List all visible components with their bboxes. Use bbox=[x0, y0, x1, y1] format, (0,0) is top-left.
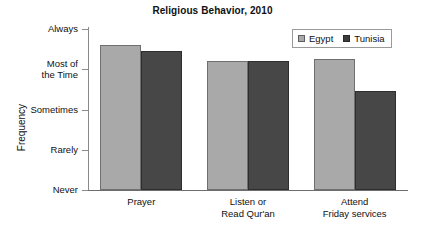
bar-egypt-2[interactable] bbox=[314, 59, 355, 190]
y-axis-title: Frequency bbox=[16, 63, 27, 193]
bar-tunisia-0[interactable] bbox=[141, 51, 182, 190]
bars-layer bbox=[88, 27, 408, 190]
y-axis-tick-label: Sometimes bbox=[0, 105, 78, 116]
legend-label-egypt: Egypt bbox=[309, 33, 333, 44]
bar-tunisia-2[interactable] bbox=[355, 91, 396, 190]
religious-behavior-bar-chart: Religious Behavior, 2010 Frequency Never… bbox=[0, 0, 425, 233]
y-axis-tick-mark bbox=[82, 190, 88, 191]
x-axis-category-label: Listen or Read Qur'an bbox=[188, 196, 308, 219]
y-axis-tick-label: Rarely bbox=[0, 145, 78, 156]
tunisia-color-swatch-icon bbox=[343, 35, 350, 42]
x-axis-category-label: Prayer bbox=[81, 196, 201, 208]
chart-title: Religious Behavior, 2010 bbox=[0, 5, 425, 16]
x-axis-line bbox=[88, 190, 408, 191]
bar-egypt-1[interactable] bbox=[207, 61, 248, 190]
y-axis-tick-label: Never bbox=[0, 185, 78, 196]
y-axis-tick-label: Most of the Time bbox=[0, 59, 78, 80]
legend-entry-egypt[interactable]: Egypt bbox=[298, 33, 333, 44]
egypt-color-swatch-icon bbox=[298, 35, 305, 42]
legend-label-tunisia: Tunisia bbox=[354, 33, 384, 44]
chart-legend: Egypt Tunisia bbox=[292, 29, 392, 48]
y-axis-tick-label: Always bbox=[0, 24, 78, 35]
bar-tunisia-1[interactable] bbox=[248, 61, 289, 190]
legend-entry-tunisia[interactable]: Tunisia bbox=[343, 33, 384, 44]
bar-egypt-0[interactable] bbox=[100, 45, 141, 190]
x-axis-category-label: Attend Friday services bbox=[295, 196, 415, 219]
